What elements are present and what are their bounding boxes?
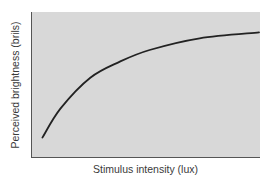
chart-figure: Stimulus intensity (lux) Perceived brigh… [0, 0, 270, 179]
brightness-curve [0, 0, 270, 179]
y-axis-label: Perceived brightness (brils) [9, 21, 21, 148]
x-axis-label: Stimulus intensity (lux) [31, 163, 260, 175]
curve-line [42, 32, 259, 137]
